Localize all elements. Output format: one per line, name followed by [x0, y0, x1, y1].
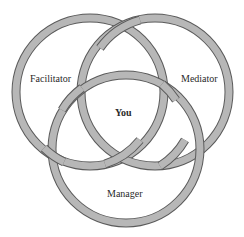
label-manager: Manager — [107, 188, 143, 199]
venn-svg: Facilitator Mediator Manager You — [0, 0, 244, 237]
label-facilitator: Facilitator — [30, 73, 72, 84]
venn-diagram: Facilitator Mediator Manager You — [0, 0, 244, 237]
label-mediator: Mediator — [181, 73, 218, 84]
label-you: You — [115, 107, 132, 118]
